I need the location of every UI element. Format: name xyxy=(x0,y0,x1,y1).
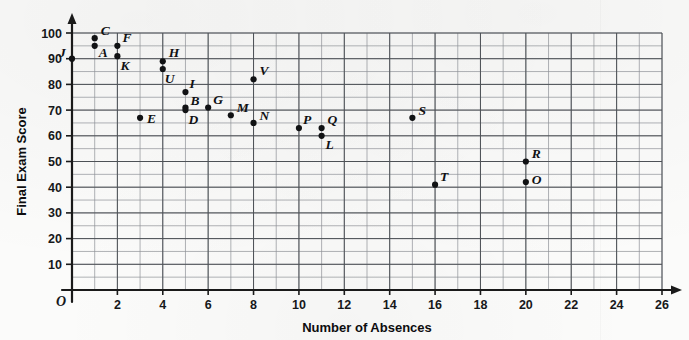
data-point-marker[interactable] xyxy=(250,76,256,82)
y-tick-label: 70 xyxy=(48,104,62,118)
y-tick-label: 80 xyxy=(48,78,62,92)
scatter-plot-figure: 2468101214161820222426 10203040506070809… xyxy=(0,0,689,340)
data-point-marker[interactable] xyxy=(228,112,234,118)
data-point[interactable]: U xyxy=(160,66,176,86)
y-tick-label: 20 xyxy=(48,232,62,246)
data-point-marker[interactable] xyxy=(92,35,98,41)
data-point[interactable]: C xyxy=(92,23,111,41)
x-tick-label: 2 xyxy=(114,298,121,312)
x-tick-label: 16 xyxy=(428,298,442,312)
data-point-marker[interactable] xyxy=(523,179,529,185)
data-point-label: T xyxy=(440,169,449,184)
x-tick-label: 24 xyxy=(610,298,624,312)
x-tick-label: 20 xyxy=(519,298,533,312)
data-point-marker[interactable] xyxy=(114,43,120,49)
x-tick-label: 6 xyxy=(205,298,212,312)
data-point-label: M xyxy=(236,100,250,115)
x-tick-label: 26 xyxy=(655,298,669,312)
data-point-label: G xyxy=(213,92,223,107)
y-tick-label: 100 xyxy=(41,27,62,41)
data-point-marker[interactable] xyxy=(250,120,256,126)
y-axis-ticks: 102030405060708090100 xyxy=(41,27,72,272)
data-point-label: O xyxy=(532,172,542,187)
y-tick-label: 10 xyxy=(48,258,62,272)
data-point-marker[interactable] xyxy=(319,133,325,139)
data-point-label: R xyxy=(531,146,541,161)
data-point-marker[interactable] xyxy=(160,58,166,64)
data-point-label: Q xyxy=(328,112,338,127)
y-axis-arrowhead xyxy=(68,13,77,24)
data-point-label: F xyxy=(121,30,131,45)
y-axis-title: Final Exam Score xyxy=(14,107,29,215)
data-point-label: C xyxy=(101,23,111,38)
data-point-label: H xyxy=(168,45,180,60)
data-point-label: L xyxy=(325,137,334,152)
x-axis-title: Number of Absences xyxy=(302,320,432,335)
data-point-label: N xyxy=(259,108,271,123)
y-tick-label: 40 xyxy=(48,181,62,195)
axes xyxy=(62,13,682,302)
data-point-marker[interactable] xyxy=(205,104,211,110)
scatter-plot-canvas: 2468101214161820222426 10203040506070809… xyxy=(0,0,689,340)
y-tick-label: 30 xyxy=(48,206,62,220)
data-point-marker[interactable] xyxy=(523,158,529,164)
data-point-label: S xyxy=(418,103,426,118)
data-point-marker[interactable] xyxy=(69,56,75,62)
data-point[interactable]: A xyxy=(92,43,108,60)
x-axis-ticks: 2468101214161820222426 xyxy=(114,290,669,312)
x-tick-label: 12 xyxy=(337,298,351,312)
data-point[interactable]: S xyxy=(409,103,426,121)
data-point-label: K xyxy=(119,58,130,73)
data-point-marker[interactable] xyxy=(92,43,98,49)
data-point-marker[interactable] xyxy=(319,125,325,131)
y-tick-label: 60 xyxy=(48,129,62,143)
data-point-marker[interactable] xyxy=(432,182,438,188)
data-point-marker[interactable] xyxy=(182,89,188,95)
y-tick-label: 50 xyxy=(48,155,62,169)
data-point-series: JCAFKEHUIBDGMVNPQLSTRO xyxy=(58,23,542,188)
data-point-label: P xyxy=(303,112,312,127)
data-point-marker[interactable] xyxy=(409,115,415,121)
x-axis-arrowhead xyxy=(671,286,682,295)
x-tick-label: 14 xyxy=(383,298,397,312)
data-point-label: V xyxy=(260,63,270,78)
data-point-label: U xyxy=(165,71,176,86)
data-point-marker[interactable] xyxy=(296,125,302,131)
data-point-label: D xyxy=(187,112,198,127)
data-point-label: J xyxy=(58,45,67,60)
data-point-label: B xyxy=(189,93,199,108)
x-tick-label: 18 xyxy=(474,298,488,312)
data-point[interactable]: T xyxy=(432,169,449,188)
x-tick-label: 8 xyxy=(250,298,257,312)
x-tick-label: 22 xyxy=(564,298,578,312)
data-point-label: E xyxy=(146,111,156,126)
data-point[interactable]: P xyxy=(296,112,312,131)
origin-label: O xyxy=(56,294,66,309)
x-tick-label: 4 xyxy=(159,298,166,312)
x-tick-label: 10 xyxy=(292,298,306,312)
data-point[interactable]: K xyxy=(114,53,130,73)
data-point-marker[interactable] xyxy=(137,115,143,121)
data-point-label: A xyxy=(98,45,108,60)
data-point-label: I xyxy=(188,76,195,91)
